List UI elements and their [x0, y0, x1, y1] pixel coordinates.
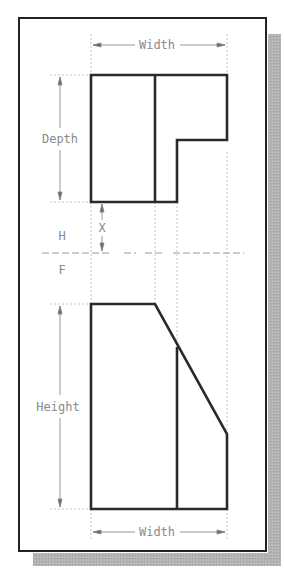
drawing-frame — [19, 18, 266, 551]
gap-x-label: X — [98, 221, 106, 235]
plane-h-label: H — [58, 229, 65, 243]
depth-label: Depth — [42, 132, 78, 146]
plane-f-label: F — [58, 263, 65, 277]
top-width-label: Width — [139, 38, 175, 52]
height-label: Height — [36, 400, 79, 414]
bottom-width-label: Width — [139, 525, 175, 539]
projection-diagram: Width Depth X H F Height Width — [0, 0, 285, 574]
